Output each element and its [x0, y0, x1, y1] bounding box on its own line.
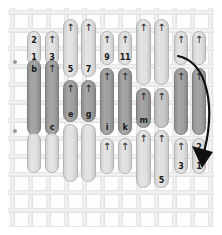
- left-marker-lower: [13, 129, 17, 133]
- diagram-canvas: 21b↑3↑c↑5↑e↑7↑g↑9↑i↑↑11↑k↑↑↑m↑↑↑↑5↑↑↑3↑↑…: [0, 0, 222, 235]
- flow-arrow-icon: [172, 42, 222, 192]
- left-marker-upper: [13, 60, 17, 64]
